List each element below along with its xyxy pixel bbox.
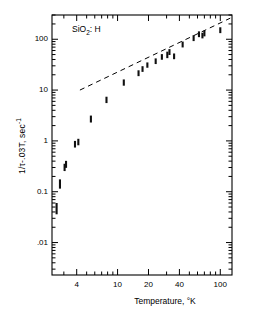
x-axis-ticks xyxy=(64,15,220,275)
x-tick-label: 100 xyxy=(206,280,234,289)
y-tick-label: .01 xyxy=(20,238,48,247)
y-axis-label-text: 1/τ-.03T, sec xyxy=(17,124,27,174)
data-points-group xyxy=(57,27,221,214)
y-axis-label-exponent: -1 xyxy=(15,118,22,124)
x-tick-label: 10 xyxy=(104,280,132,289)
y-axis-label: 1/τ-.03T, sec-1 xyxy=(15,91,27,201)
x-tick-label: 40 xyxy=(165,280,193,289)
plot-title-post: : H xyxy=(90,24,101,34)
plot-title: SiO2: H xyxy=(72,24,101,36)
x-tick-label: 4 xyxy=(63,280,91,289)
chart-figure xyxy=(0,0,256,317)
y-tick-label: 10 xyxy=(20,85,48,94)
y-tick-label: 0.1 xyxy=(20,187,48,196)
dashed-reference-line xyxy=(80,18,230,90)
x-axis-label: Temperature, °K xyxy=(100,296,230,306)
y-tick-label: 1 xyxy=(20,136,48,145)
y-tick-label: 100 xyxy=(20,34,48,43)
plot-title-pre: SiO xyxy=(72,24,86,34)
x-tick-label: 20 xyxy=(134,280,162,289)
